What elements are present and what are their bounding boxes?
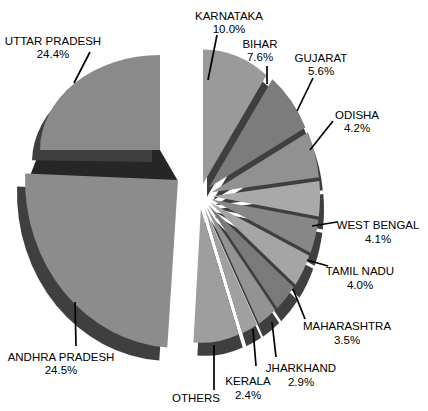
- label-uttar-pradesh: UTTAR PRADESH: [5, 35, 101, 47]
- pct-label-tamil-nadu: 4.0%: [347, 279, 373, 291]
- slice-uttar-pradesh: [40, 55, 160, 150]
- pct-label-uttar-pradesh: 24.4%: [37, 48, 70, 60]
- leader-gujarat: [297, 78, 313, 111]
- label-bihar: BIHAR: [242, 38, 277, 50]
- pct-label-kerala: 2.4%: [235, 389, 261, 401]
- pct-label-andhra-pradesh: 24.5%: [45, 364, 78, 376]
- pct-label-gujarat: 5.6%: [308, 65, 334, 77]
- pie-chart-figure: KARNATAKA10.0%BIHAR7.6%GUJARAT5.6%ODISHA…: [0, 0, 428, 411]
- label-others: OTHERS: [172, 392, 220, 404]
- label-andhra-pradesh: ANDHRA PRADESH: [8, 351, 115, 363]
- slice-andhra-pradesh: [25, 174, 178, 348]
- label-odisha: ODISHA: [335, 109, 379, 121]
- pct-label-maharashtra: 3.5%: [334, 334, 360, 346]
- leader-andhra-pradesh: [75, 302, 76, 346]
- pct-label-bihar: 7.6%: [247, 51, 273, 63]
- leader-odisha: [310, 121, 333, 150]
- label-west-bengal: WEST BENGAL: [337, 219, 420, 231]
- label-maharashtra: MAHARASHTRA: [303, 320, 392, 332]
- pct-label-karnataka: 10.0%: [213, 23, 246, 35]
- pct-label-odisha: 4.2%: [344, 122, 370, 134]
- label-kerala: KERALA: [225, 375, 271, 387]
- pct-label-west-bengal: 4.1%: [365, 233, 391, 245]
- label-jharkhand: JHARKHAND: [266, 362, 336, 374]
- label-karnataka: KARNATAKA: [195, 10, 263, 22]
- pct-label-jharkhand: 2.9%: [288, 376, 314, 388]
- label-gujarat: GUJARAT: [295, 52, 348, 64]
- label-tamil-nadu: TAMIL NADU: [326, 265, 394, 277]
- pie-chart: KARNATAKA10.0%BIHAR7.6%GUJARAT5.6%ODISHA…: [0, 0, 428, 411]
